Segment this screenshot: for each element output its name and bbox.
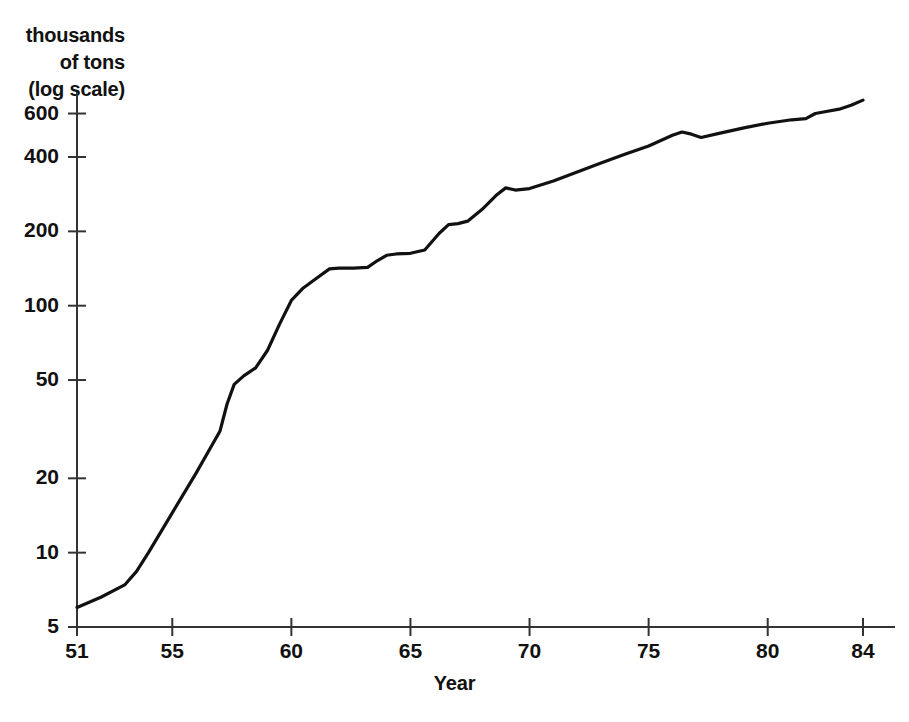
x-axis-tick-label: 80 <box>738 639 798 663</box>
y-axis-tick-label: 200 <box>1 218 59 242</box>
chart-figure: thousands of tons (log scale) 5102050100… <box>0 0 909 722</box>
y-axis-tick-label: 20 <box>1 465 59 489</box>
x-axis-tick-label: 65 <box>380 639 440 663</box>
data-line-production <box>77 100 863 607</box>
x-axis-tick-label: 75 <box>619 639 679 663</box>
x-axis-tick-label: 55 <box>142 639 202 663</box>
x-axis-tick-label: 84 <box>833 639 893 663</box>
plot-area <box>0 0 909 722</box>
y-axis-tick-label: 10 <box>1 540 59 564</box>
x-axis-title: Year <box>0 672 909 695</box>
y-axis-tick-label: 400 <box>1 144 59 168</box>
y-axis-tick-label: 5 <box>1 614 59 638</box>
x-axis-tick-label: 70 <box>500 639 560 663</box>
axis-lines <box>77 92 895 627</box>
x-axis-tick-label: 51 <box>47 639 107 663</box>
y-axis-tick-label: 50 <box>1 367 59 391</box>
y-axis-tick-label: 100 <box>1 293 59 317</box>
y-axis-tick-label: 600 <box>1 101 59 125</box>
data-series-group <box>77 100 863 607</box>
x-axis-tick-label: 60 <box>261 639 321 663</box>
